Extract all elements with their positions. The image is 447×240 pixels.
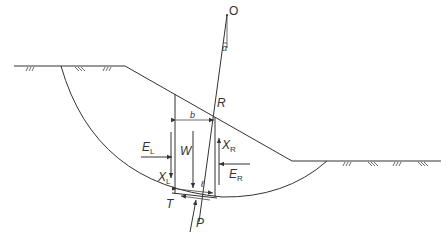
weight-label: W — [180, 145, 191, 157]
angle-label: α — [222, 44, 227, 53]
shear-resistance-label: T — [166, 198, 173, 210]
slope-stability-diagram — [0, 0, 447, 240]
right-normal-force-label: ER — [229, 168, 243, 180]
right-shear-force-label: XR — [222, 139, 236, 151]
left-shear-force-label: XL — [158, 171, 170, 183]
center-label: O — [229, 5, 238, 17]
normal-reaction-label: P — [196, 217, 204, 229]
slice-width-label: b — [190, 111, 195, 120]
base-length-dimension — [177, 189, 213, 193]
left-normal-force-label: EL — [142, 141, 154, 153]
slip-circle — [61, 66, 327, 197]
base-length-label: ℓ — [201, 180, 204, 189]
radius-label: R — [217, 97, 226, 109]
